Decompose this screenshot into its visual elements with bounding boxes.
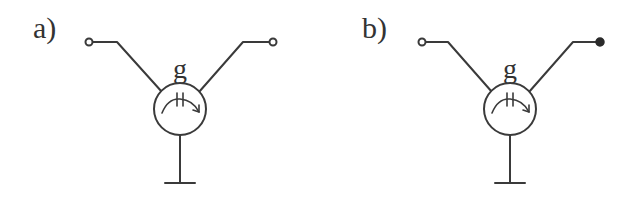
right-terminal-filled-b [596, 38, 604, 46]
left-lead-b [426, 42, 492, 92]
panel-label-b: b) [362, 11, 387, 45]
left-lead-a [93, 42, 162, 92]
element-label-b: g [503, 53, 517, 84]
right-lead-b [529, 42, 600, 92]
panel-a: a) g [33, 11, 277, 183]
right-terminal-open-a [270, 39, 277, 46]
panel-label-a: a) [33, 11, 56, 45]
element-label-a: g [173, 53, 187, 84]
left-terminal-open-b [419, 39, 426, 46]
right-lead-a [199, 42, 269, 92]
panel-b: b) g [362, 11, 604, 183]
left-terminal-open-a [86, 39, 93, 46]
diagram-canvas: a) g b) g [0, 0, 637, 202]
